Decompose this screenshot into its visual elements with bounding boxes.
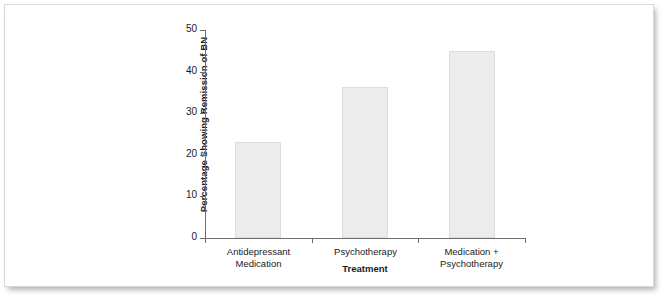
y-tick-label: 30 [186, 106, 197, 117]
x-tick-mark [525, 238, 526, 243]
x-tick-mark [205, 238, 206, 243]
x-axis-title: Treatment [205, 263, 525, 274]
x-tick-mark [418, 238, 419, 243]
chart-page-frame: Percentage Showing Remission of BN 01020… [4, 4, 654, 287]
y-tick-mark [200, 30, 205, 31]
y-tick-label: 20 [186, 148, 197, 159]
x-axis-line [205, 238, 525, 239]
y-tick-label: 0 [191, 231, 197, 242]
y-tick-mark [200, 155, 205, 156]
x-category-label: Psychotherapy [312, 246, 419, 258]
bar [235, 142, 281, 238]
y-tick-mark [200, 196, 205, 197]
bar [449, 51, 495, 238]
bar [342, 87, 388, 238]
y-tick-label: 50 [186, 23, 197, 34]
bar-chart: Percentage Showing Remission of BN 01020… [160, 15, 540, 295]
y-axis-line [205, 30, 206, 238]
y-tick-label: 10 [186, 189, 197, 200]
y-tick-mark [200, 72, 205, 73]
y-tick-mark [200, 113, 205, 114]
y-tick-label: 40 [186, 65, 197, 76]
x-tick-mark [312, 238, 313, 243]
plot-area: 01020304050 Antidepressant MedicationPsy… [205, 30, 525, 238]
